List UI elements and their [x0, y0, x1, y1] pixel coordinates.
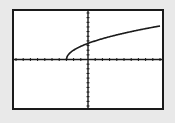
graph-screen [12, 9, 164, 110]
graph-plot [14, 11, 162, 108]
function-curve [66, 26, 160, 60]
